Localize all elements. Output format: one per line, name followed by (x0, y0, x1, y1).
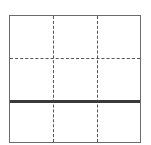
vertical-divider-1 (53, 16, 54, 142)
diagram-canvas (0, 0, 151, 145)
vertical-divider-2 (97, 16, 98, 142)
horizontal-divider-bold (10, 100, 140, 103)
grid-frame (9, 15, 141, 143)
horizontal-divider-dashed (10, 58, 140, 59)
